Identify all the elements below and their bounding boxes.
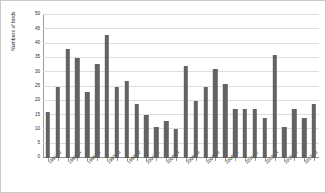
bar-slot [151,15,161,158]
bar-slot: 1991/92 [43,15,53,158]
bar-slot [289,15,299,158]
bar[interactable] [105,35,109,158]
bar[interactable] [56,87,60,159]
bar[interactable] [302,118,306,158]
bar[interactable] [243,109,247,158]
y-tick-label: 45 [35,27,40,32]
bar-slot [132,15,142,158]
bar-slot [92,15,102,158]
x-tick-mark [275,158,276,161]
x-tick-mark [314,158,315,161]
bar-slot: 2017/18 [299,15,309,158]
plot-area: 05101520253035404550 1991/921993/941995/… [43,15,319,158]
bar[interactable] [174,129,178,158]
bar[interactable] [292,109,296,158]
bar[interactable] [46,112,50,158]
bar[interactable] [282,127,286,158]
bar[interactable] [75,58,79,158]
bar-slot: 2005/06 [181,15,191,158]
x-tick-mark [176,158,177,161]
x-tick-mark [117,158,118,161]
bar-slot: 2007/08 [201,15,211,158]
bar[interactable] [95,64,99,158]
y-tick-label: 25 [35,84,40,89]
bar-series: 1991/921993/941995/961997/981999/002001/… [43,15,319,158]
bar-slot [211,15,221,158]
bar-slot: 1999/00 [122,15,132,158]
bar[interactable] [233,109,237,158]
x-tick-mark [77,158,78,161]
bar[interactable] [65,49,69,158]
y-axis-title: Numbers of birds [10,11,16,51]
y-tick-label: 30 [35,70,40,75]
bar[interactable] [272,55,276,158]
bar-slot: 2011/12 [240,15,250,158]
bar-slot: 1997/98 [102,15,112,158]
bar-slot: 2003/04 [161,15,171,158]
bar-chart-figure: Numbers of birds 05101520253035404550 19… [0,0,326,193]
bar-slot [270,15,280,158]
bar[interactable] [263,118,267,158]
y-tick-label: 40 [35,41,40,46]
bar[interactable] [144,115,148,158]
bar[interactable] [85,92,89,158]
bar-slot: 2013/14 [260,15,270,158]
bar-slot [250,15,260,158]
bar-slot [53,15,63,158]
bar-slot: 2001/02 [142,15,152,158]
bar[interactable] [134,104,138,158]
bar[interactable] [203,87,207,159]
bar[interactable] [213,69,217,158]
bar[interactable] [164,121,168,158]
bar-slot: 1995/96 [82,15,92,158]
x-tick-mark [58,158,59,161]
bar[interactable] [125,81,129,158]
bar[interactable] [223,84,227,158]
y-tick-label: 20 [35,99,40,104]
x-tick-mark [196,158,197,161]
x-tick-mark [215,158,216,161]
bar[interactable] [184,66,188,158]
y-tick-label: 50 [35,13,40,18]
bar[interactable] [154,127,158,158]
bar-slot: 2015/16 [280,15,290,158]
y-tick-label: 5 [37,141,40,146]
y-tick-label: 15 [35,113,40,118]
x-tick-mark [137,158,138,161]
y-tick-label: 35 [35,56,40,61]
bar[interactable] [253,109,257,158]
bar-slot [73,15,83,158]
bar-slot [171,15,181,158]
x-tick-mark [255,158,256,161]
bar[interactable] [194,101,198,158]
x-tick-mark [294,158,295,161]
y-tick-label: 10 [35,127,40,132]
y-tick-label: 0 [37,156,40,161]
bar-slot: 1993/94 [63,15,73,158]
x-tick-mark [235,158,236,161]
bar-slot [309,15,319,158]
bar-slot: 2009/10 [220,15,230,158]
bar[interactable] [115,87,119,159]
bar[interactable] [312,104,316,158]
bar-slot [191,15,201,158]
bar-slot [112,15,122,158]
x-tick-mark [97,158,98,161]
x-tick-mark [156,158,157,161]
bar-slot [230,15,240,158]
